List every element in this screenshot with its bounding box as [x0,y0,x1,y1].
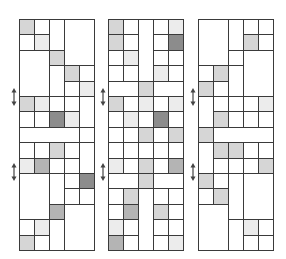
grid-cell [49,50,65,66]
grid-cell [243,158,259,174]
grid-cell [153,235,169,251]
grid-cell [198,81,214,97]
grid-cell [213,142,229,159]
grid-cell [198,188,214,205]
grid-cell [123,96,139,112]
grid-cell [153,219,169,236]
grid-cell [34,111,50,128]
grid-cell [228,65,244,97]
grid-cell [228,158,244,174]
grid-cell [153,188,169,205]
grid-cell [64,158,80,174]
double-arrow-icon [189,163,197,181]
grid-cell [168,19,184,35]
grid-cell [123,34,139,51]
grid-cell [79,188,95,205]
grid-cell [19,127,80,143]
grid-cell [228,50,244,66]
grid-cell [213,188,229,205]
grid-cell [243,173,274,220]
grid-cell [213,65,229,82]
grid-cell [258,96,274,112]
grid-cell [153,111,169,128]
grid-cell [108,188,124,205]
grid-cell [123,127,139,143]
grid-cell [153,81,184,97]
grid-cell [213,111,229,128]
grid-cell [168,188,184,205]
grid-cell [19,158,35,174]
grid-cell [123,65,139,82]
grid-cell [123,204,139,220]
grid-cell [19,34,35,51]
grid-cell [228,111,244,128]
grid-cell [168,127,184,143]
grid-cell [168,158,184,174]
grid-cell [138,127,154,143]
grid-cell [213,81,229,97]
grid-cell [168,65,184,82]
grid-cell [19,96,35,112]
grid-cell [213,127,274,143]
grid-cell [108,173,139,189]
grid-cell [168,34,184,51]
grid-cell [79,142,95,174]
grid-cell [168,50,184,66]
grid-cell [243,19,259,35]
grid-cell [34,219,50,236]
grid-cell [168,111,184,128]
grid-cell [243,235,259,251]
grid-cell [19,50,50,97]
grid-cell [49,173,65,205]
grid-cell [49,19,65,51]
grid-cell [123,111,139,128]
grid-cell [198,127,214,143]
grid-cell [213,173,229,189]
grid-cell [213,96,229,112]
grid-cell [213,158,229,174]
panel-3 [198,19,273,250]
grid-cell [19,173,50,220]
grid-cell [108,81,139,97]
double-arrow-icon [189,88,197,106]
grid-cell [243,34,259,51]
grid-cell [228,19,244,51]
grid-cell [168,96,184,112]
grid-cell [108,96,124,112]
grid-cell [123,188,139,205]
grid-cell [19,219,35,236]
double-arrow-icon [10,163,18,181]
grid-cell [243,219,259,236]
grid-cell [258,219,274,236]
grid-cell [34,235,50,251]
grid-cell [64,188,80,205]
grid-cell [153,34,169,51]
grid-cell [153,96,169,112]
grid-cell [79,65,95,82]
grid-cell [34,142,50,159]
grid-cell [108,19,124,35]
grid-cell [243,50,274,97]
grid-cell [138,158,154,174]
grid-cell [123,142,139,159]
grid-cell [19,111,35,128]
grid-cell [258,34,274,51]
grid-cell [49,219,65,251]
grid-cell [108,158,124,174]
grid-cell [153,204,169,220]
grid-cell [64,19,95,66]
grid-cell [108,204,124,220]
grid-cell [258,235,274,251]
grid-cell [258,19,274,35]
grid-cell [108,142,124,159]
grid-cell [138,173,154,189]
grid-cell [228,219,244,251]
grid-cell [228,142,244,159]
grid-cell [168,142,184,159]
grid-cell [198,65,214,82]
grid-cell [153,127,169,143]
double-arrow-icon [10,88,18,106]
grid-cell [168,204,184,220]
grid-cell [49,158,65,174]
grid-cell [49,142,65,159]
